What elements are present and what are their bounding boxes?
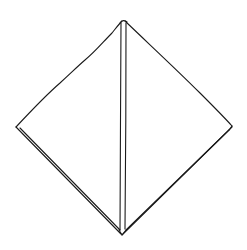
- lower-right-edge-inner: [126, 130, 229, 230]
- lower-left-edge-outer: [16, 127, 121, 234]
- folded-pyramid-drawing: [0, 0, 247, 250]
- upper-right-edge: [125, 21, 232, 126]
- upper-left-edge: [16, 21, 122, 127]
- drawing-canvas: [0, 0, 247, 250]
- center-fold-left-line: [120, 23, 121, 230]
- lower-left-edge-inner: [20, 128, 120, 230]
- center-fold-right-line: [125, 23, 126, 229]
